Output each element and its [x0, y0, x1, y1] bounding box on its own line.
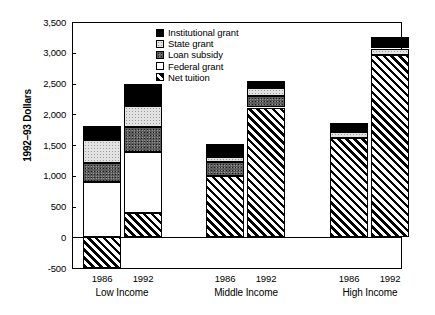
- group-label-middle-income: Middle Income: [186, 287, 306, 298]
- segment-net-tuition: [371, 55, 409, 238]
- group-label-high-income: High Income: [310, 287, 430, 298]
- segment-loan-subsidy: [206, 162, 244, 176]
- bar-middle-income-1992[interactable]: [247, 22, 285, 268]
- bar-high-income-1992[interactable]: [371, 22, 409, 268]
- legend-label-state-grant: State grant: [168, 38, 213, 49]
- bar-low-income-1986[interactable]: [83, 22, 121, 268]
- segment-institutional-grant: [83, 126, 121, 140]
- segment-institutional-grant: [371, 37, 409, 48]
- x-label-low-1992: 1992: [113, 274, 173, 284]
- segment-loan-subsidy: [247, 96, 285, 107]
- segment-institutional-grant: [330, 123, 368, 132]
- segment-institutional-grant: [206, 144, 244, 157]
- y-tick-3000: 3,000: [0, 48, 66, 58]
- legend-label-loan-subsidy: Loan subsidy: [168, 49, 223, 60]
- x-label-middle-1992: 1992: [236, 274, 296, 284]
- segment-state-grant: [124, 106, 162, 126]
- y-tick-2000: 2,000: [0, 110, 66, 120]
- segment-institutional-grant: [247, 81, 285, 88]
- y-tick-neg500: -500: [0, 264, 66, 274]
- segment-net-tuition: [124, 213, 162, 237]
- segment-net-tuition: [247, 108, 285, 238]
- y-tick-1500: 1,500: [0, 141, 66, 151]
- federal-grant-swatch-icon: [156, 62, 164, 70]
- bar-high-income-1986[interactable]: [330, 22, 368, 268]
- x-label-high-1992: 1992: [360, 274, 420, 284]
- segment-loan-subsidy: [124, 127, 162, 153]
- legend-item-net-tuition: Net tuition: [156, 72, 238, 83]
- legend-item-institutional-grant: Institutional grant: [156, 27, 238, 38]
- legend: Institutional grant State grant Loan sub…: [156, 27, 238, 83]
- segment-state-grant: [247, 88, 285, 96]
- institutional-grant-swatch-icon: [156, 29, 164, 37]
- legend-label-federal-grant: Federal grant: [168, 61, 223, 72]
- legend-label-net-tuition: Net tuition: [168, 72, 210, 83]
- loan-subsidy-swatch-icon: [156, 51, 164, 59]
- y-tick-1000: 1,000: [0, 171, 66, 181]
- segment-net-tuition: [330, 138, 368, 237]
- segment-net-tuition: [206, 176, 244, 237]
- segment-net-tuition: [83, 237, 121, 268]
- legend-label-institutional-grant: Institutional grant: [168, 27, 238, 38]
- segment-institutional-grant: [124, 84, 162, 106]
- group-label-low-income: Low Income: [62, 287, 182, 298]
- segment-loan-subsidy: [83, 163, 121, 182]
- stacked-bar-chart: 1992–93 Dollars 3,500 3,000 2,500 2,000 …: [0, 0, 435, 315]
- state-grant-swatch-icon: [156, 40, 164, 48]
- y-tick-500: 500: [0, 202, 66, 212]
- segment-state-grant: [83, 140, 121, 163]
- legend-item-federal-grant: Federal grant: [156, 61, 238, 72]
- legend-item-state-grant: State grant: [156, 38, 238, 49]
- segment-federal-grant: [83, 182, 121, 237]
- legend-item-loan-subsidy: Loan subsidy: [156, 49, 238, 60]
- y-tick-3500: 3,500: [0, 18, 66, 28]
- segment-federal-grant: [124, 152, 162, 213]
- y-tick-2500: 2,500: [0, 79, 66, 89]
- y-tick-0: 0: [0, 233, 66, 243]
- net-tuition-swatch-icon: [156, 73, 164, 81]
